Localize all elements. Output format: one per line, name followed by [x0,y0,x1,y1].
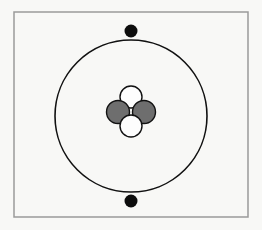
bohr-model-figure [0,0,262,230]
electron-bottom-dot [125,195,138,208]
diagram-canvas [0,0,262,230]
neutron-bottom-circle [120,115,142,137]
electron-top-dot [125,25,138,38]
